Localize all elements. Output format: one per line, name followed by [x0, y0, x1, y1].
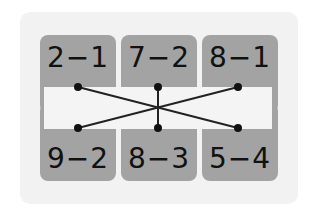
dot-top-3 [234, 83, 242, 91]
dot-bottom-1 [74, 124, 82, 132]
connection-lines [0, 0, 314, 208]
dot-bottom-3 [234, 124, 242, 132]
dot-bottom-2 [154, 124, 162, 132]
dot-top-1 [74, 83, 82, 91]
dot-top-2 [154, 83, 162, 91]
